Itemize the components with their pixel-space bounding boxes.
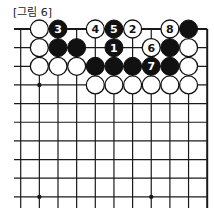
move-number: 2	[129, 23, 137, 36]
white-stone-icon	[124, 76, 142, 94]
black-stone	[105, 57, 123, 75]
black-stone-3: 3	[49, 20, 67, 38]
white-stone	[30, 57, 48, 75]
black-stone	[180, 20, 198, 38]
black-stone-icon	[161, 39, 179, 57]
move-number: 7	[147, 60, 155, 73]
black-stone-icon	[124, 57, 142, 75]
black-stone	[161, 57, 179, 75]
white-stone-icon	[30, 57, 48, 75]
white-stone-icon	[86, 76, 104, 94]
white-stone	[180, 57, 198, 75]
white-stone	[49, 57, 67, 75]
move-number: 1	[110, 42, 118, 55]
white-stone-icon	[161, 76, 179, 94]
move-number: 6	[147, 42, 155, 55]
white-stone-4: 4	[86, 20, 104, 38]
star-point	[149, 195, 153, 199]
star-point	[37, 195, 41, 199]
white-stone	[142, 76, 160, 94]
white-stone-icon	[68, 57, 86, 75]
black-stone	[49, 39, 67, 57]
stones: 34528167	[30, 20, 197, 94]
white-stone-icon	[180, 76, 198, 94]
white-stone-icon	[142, 76, 160, 94]
star-point	[37, 83, 41, 87]
white-stone-icon	[49, 57, 67, 75]
white-stone-icon	[30, 39, 48, 57]
black-stone	[161, 39, 179, 57]
white-stone	[105, 76, 123, 94]
white-stone-icon	[105, 76, 123, 94]
black-stone-icon	[180, 20, 198, 38]
white-stone-icon	[180, 39, 198, 57]
move-number: 5	[110, 23, 118, 36]
black-stone-icon	[105, 57, 123, 75]
white-stone-icon	[30, 20, 48, 38]
black-stone-7: 7	[142, 57, 160, 75]
move-number: 8	[166, 23, 174, 36]
white-stone	[161, 76, 179, 94]
move-number: 3	[54, 23, 62, 36]
white-stone-icon	[180, 57, 198, 75]
white-stone	[30, 39, 48, 57]
white-stone	[30, 20, 48, 38]
black-stone	[86, 57, 104, 75]
black-stone	[68, 39, 86, 57]
black-stone-icon	[49, 39, 67, 57]
white-stone-8: 8	[161, 20, 179, 38]
white-stone	[68, 57, 86, 75]
black-stone-icon	[68, 39, 86, 57]
white-stone	[180, 39, 198, 57]
white-stone-6: 6	[142, 39, 160, 57]
black-stone-1: 1	[105, 39, 123, 57]
black-stone-icon	[86, 57, 104, 75]
white-stone	[86, 76, 104, 94]
black-stone-5: 5	[105, 20, 123, 38]
move-number: 4	[91, 23, 99, 36]
black-stone	[124, 57, 142, 75]
white-stone	[124, 76, 142, 94]
white-stone-2: 2	[124, 20, 142, 38]
go-board-diagram: 34528167	[0, 0, 214, 224]
black-stone-icon	[161, 57, 179, 75]
white-stone	[180, 76, 198, 94]
